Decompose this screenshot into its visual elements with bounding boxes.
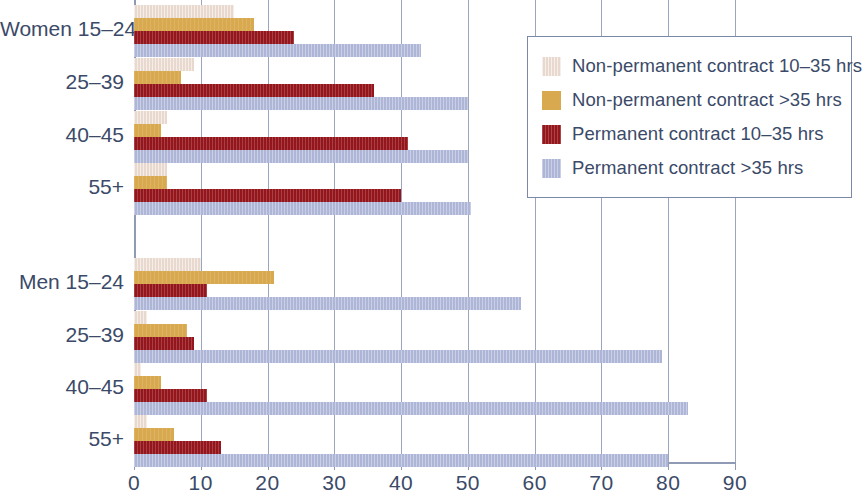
axis-tick — [735, 462, 736, 470]
category-label: 55+ — [0, 427, 124, 451]
category-label: Women 15–24 — [0, 17, 124, 41]
legend-label: Permanent contract 10–35 hrs — [572, 123, 824, 145]
legend-item[interactable]: Permanent contract 10–35 hrs — [542, 117, 851, 151]
legend-item[interactable]: Non-permanent contract >35 hrs — [542, 83, 851, 117]
category-label: Men 15–24 — [0, 270, 124, 294]
axis-tick-label: 70 — [589, 471, 613, 495]
axis-tick-label: 0 — [128, 471, 140, 495]
category-label: 25–39 — [0, 70, 124, 94]
legend-swatch-permanent-10-35 — [542, 125, 561, 144]
legend-item[interactable]: Non-permanent contract 10–35 hrs — [542, 49, 851, 83]
bar-chart: Women 15–2425–3940–4555+Men 15–2425–3940… — [0, 0, 862, 501]
category-label: 55+ — [0, 175, 124, 199]
legend-label: Permanent contract >35 hrs — [572, 157, 803, 179]
category-label: 40–45 — [0, 123, 124, 147]
legend-label: Non-permanent contract 10–35 hrs — [572, 55, 862, 77]
axis-tick-label: 90 — [723, 471, 747, 495]
axis-tick-label: 60 — [522, 471, 546, 495]
legend-label: Non-permanent contract >35 hrs — [572, 89, 842, 111]
legend-swatch-non-permanent-over-35 — [542, 91, 561, 110]
axis-tick-label: 50 — [456, 471, 480, 495]
legend-swatch-permanent-over-35 — [542, 159, 561, 178]
axis-tick-label: 40 — [389, 471, 413, 495]
axis-tick-label: 30 — [322, 471, 346, 495]
category-label: 40–45 — [0, 375, 124, 399]
legend-item[interactable]: Permanent contract >35 hrs — [542, 151, 851, 185]
axis-tick-label: 20 — [255, 471, 279, 495]
legend-swatch-non-permanent-10-35 — [542, 57, 561, 76]
legend: Non-permanent contract 10–35 hrs Non-per… — [527, 36, 852, 198]
axis-tick-label: 10 — [189, 471, 213, 495]
category-label: 25–39 — [0, 323, 124, 347]
axis-tick-label: 80 — [656, 471, 680, 495]
